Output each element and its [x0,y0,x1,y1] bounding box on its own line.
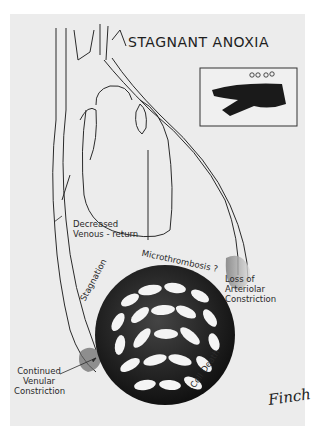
label-decreased-venous-return: Decreased Venous - return [73,219,138,239]
capillary-bed-sphere [95,265,235,405]
label-line: Venous - return [73,229,138,239]
label-line: Continued [14,366,64,376]
inset-box [200,68,297,126]
label-line: Venular [14,376,64,386]
label-line: Decreased [73,219,138,229]
figure-title: STAGNANT ANOXIA [128,34,269,50]
label-line: Constriction [14,386,64,396]
label-continued-venular-constriction: Continued Venular Constriction [14,366,64,396]
label-line: Loss of [225,274,276,284]
label-line: Arteriolar [225,284,276,294]
label-line: Constriction [225,294,276,304]
label-loss-arteriolar-constriction: Loss of Arteriolar Constriction [225,274,276,304]
diagram-page: STAGNANT ANOXIA Decreased Venous - retur… [0,0,313,431]
